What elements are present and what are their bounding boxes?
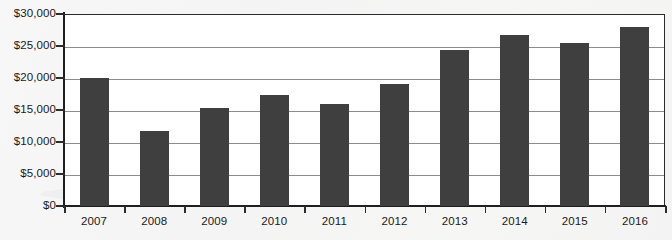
x-axis-label-2007: 2007 bbox=[64, 215, 124, 227]
x-axis-tick bbox=[365, 206, 367, 213]
x-axis-label-2012: 2012 bbox=[365, 215, 425, 227]
bar-2016 bbox=[620, 27, 649, 206]
bar-2007 bbox=[80, 78, 109, 206]
y-axis-tick-label: $25,000 bbox=[0, 39, 56, 51]
x-axis-tick bbox=[184, 206, 186, 213]
x-axis-tick bbox=[605, 206, 607, 213]
x-axis-label-2008: 2008 bbox=[124, 215, 184, 227]
y-axis-tick bbox=[56, 109, 65, 111]
x-axis-label-2011: 2011 bbox=[304, 215, 364, 227]
x-axis-tick bbox=[124, 206, 126, 213]
x-axis-tick bbox=[485, 206, 487, 213]
bar-2011 bbox=[320, 104, 349, 206]
y-axis-tick-label: $0 bbox=[0, 199, 56, 211]
x-axis-tick bbox=[665, 206, 667, 213]
y-axis-tick-label: $5,000 bbox=[0, 167, 56, 179]
bar-2012 bbox=[380, 84, 409, 206]
x-axis-label-2010: 2010 bbox=[244, 215, 304, 227]
x-axis-tick bbox=[64, 206, 66, 213]
y-axis-tick bbox=[56, 173, 65, 175]
x-axis-label-2015: 2015 bbox=[545, 215, 605, 227]
bar-2015 bbox=[560, 43, 589, 206]
y-axis-tick bbox=[56, 141, 65, 143]
x-axis-tick bbox=[425, 206, 427, 213]
y-axis-tick-label: $15,000 bbox=[0, 103, 56, 115]
y-axis-tick bbox=[56, 77, 65, 79]
x-axis-label-2013: 2013 bbox=[425, 215, 485, 227]
y-axis-tick-label: $20,000 bbox=[0, 71, 56, 83]
x-axis-label-2009: 2009 bbox=[184, 215, 244, 227]
bar-2013 bbox=[440, 50, 469, 206]
y-axis-tick-label: $30,000 bbox=[0, 7, 56, 19]
x-axis-label-2014: 2014 bbox=[485, 215, 545, 227]
bar-2009 bbox=[200, 108, 229, 206]
bar-2010 bbox=[260, 95, 289, 206]
y-axis-tick-label: $10,000 bbox=[0, 135, 56, 147]
bar-2014 bbox=[500, 35, 529, 206]
x-axis-tick bbox=[545, 206, 547, 213]
x-axis-tick bbox=[304, 206, 306, 213]
y-axis-tick bbox=[56, 45, 65, 47]
bar-chart: $0$5,000$10,000$15,000$20,000$25,000$30,… bbox=[0, 0, 672, 240]
bar-2008 bbox=[140, 131, 169, 206]
x-axis-label-2016: 2016 bbox=[605, 215, 665, 227]
x-axis-tick bbox=[244, 206, 246, 213]
y-axis-tick bbox=[56, 13, 65, 15]
